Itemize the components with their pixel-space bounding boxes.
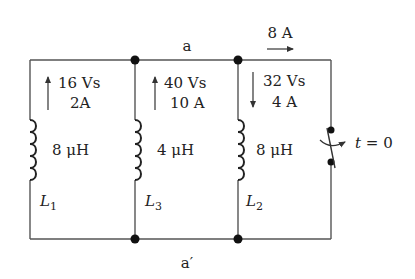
l2-flux-label: 32 Vs bbox=[263, 72, 305, 90]
l3-current-label: 10 A bbox=[170, 94, 205, 112]
circuit-diagram: a a′ 8 A 16 Vs 2A 8 μH L1 40 Vs 10 A 4 μ… bbox=[0, 0, 415, 279]
switch bbox=[320, 127, 345, 169]
top-current-label: 8 A bbox=[267, 24, 292, 42]
inductor-l1-coil bbox=[30, 120, 36, 180]
l2-current-label: 4 A bbox=[272, 93, 297, 111]
node-a-right bbox=[234, 56, 243, 65]
l3-inductance-label: 4 μH bbox=[157, 141, 194, 159]
node-a-label: a bbox=[183, 37, 192, 55]
l1-name-label: L1 bbox=[39, 192, 57, 213]
l3-flux-label: 40 Vs bbox=[164, 74, 206, 92]
node-a-prime-label: a′ bbox=[181, 254, 194, 272]
inductor-l3-coil bbox=[135, 120, 141, 180]
inductor-l2-coil bbox=[238, 120, 244, 180]
l2-inductance-label: 8 μH bbox=[256, 141, 293, 159]
l1-flux-label: 16 Vs bbox=[58, 74, 100, 92]
node-a-prime-left bbox=[131, 235, 140, 244]
l2-name-label: L2 bbox=[245, 192, 263, 213]
switch-time-label: t = 0 bbox=[355, 134, 393, 152]
l1-current-label: 2A bbox=[70, 94, 91, 112]
switch-action-arrow-icon bbox=[320, 140, 345, 146]
l3-name-label: L3 bbox=[144, 192, 162, 213]
l1-inductance-label: 8 μH bbox=[52, 141, 89, 159]
node-a-prime-right bbox=[234, 235, 243, 244]
node-a-left bbox=[131, 56, 140, 65]
